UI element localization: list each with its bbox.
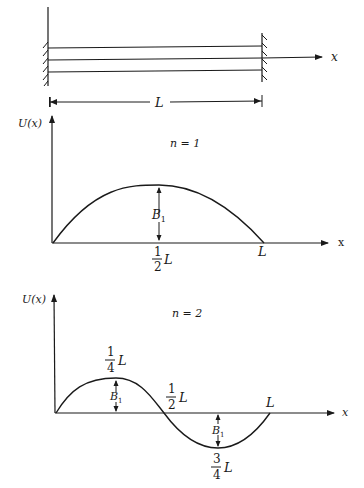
- svg-text:4: 4: [107, 361, 115, 375]
- svg-text:2: 2: [168, 398, 176, 412]
- mode2-mode-label: n = 2: [172, 307, 202, 320]
- mode2-y-axis: [54, 295, 55, 413]
- mode1-x-axis-label: x: [338, 236, 345, 249]
- svg-text:L: L: [163, 252, 173, 267]
- beam-line-middle: [48, 58, 262, 60]
- mode1-end-label: L: [257, 244, 267, 259]
- svg-text:1: 1: [168, 382, 176, 396]
- beam-x-axis-label: x: [331, 50, 338, 64]
- length-dimension-right: [170, 101, 262, 102]
- mode2-plot: U(x) x n = 2 B1 B1 1 4 L 1 2 L 3: [22, 293, 349, 482]
- mode1-y-axis-label: U(x): [18, 117, 42, 130]
- mode2-end-label: L: [265, 395, 275, 410]
- length-label: L: [154, 95, 164, 110]
- beam-diagram: x L: [43, 7, 338, 110]
- beam-line-top: [48, 46, 262, 48]
- svg-text:4: 4: [213, 468, 221, 482]
- mode2-x-axis-label: x: [342, 406, 349, 419]
- mode2-peak-position-label: 1 4 L: [105, 345, 127, 375]
- mode1-amplitude-label: B1: [151, 208, 166, 224]
- svg-text:1: 1: [154, 245, 162, 259]
- mode1-peak-position-label: 1 2 L: [152, 245, 173, 274]
- dimension-arrow-left-icon: [50, 99, 57, 105]
- svg-text:1: 1: [107, 345, 115, 359]
- mode2-node-position-label: 1 2 L: [166, 382, 188, 412]
- mode1-plot: U(x) x n = 1 B1 1 2 L L: [18, 116, 345, 274]
- beam-line-bottom: [48, 70, 262, 72]
- mode2-y-axis-label: U(x): [22, 293, 46, 306]
- beam-x-axis-arrow: [262, 57, 322, 58]
- left-wall-hatch: [43, 42, 48, 86]
- dimension-arrow-right-icon: [254, 98, 261, 104]
- mode1-mode-label: n = 1: [170, 137, 200, 150]
- svg-text:2: 2: [154, 260, 162, 274]
- svg-text:L: L: [117, 353, 127, 368]
- mode2-trough-amplitude-label: B1: [211, 424, 225, 439]
- mode2-trough-position-label: 3 4 L: [211, 452, 233, 482]
- vibration-modes-figure: x L U(x) x n = 1 B1 1 2 L L U(x): [0, 0, 364, 488]
- svg-text:L: L: [178, 390, 188, 405]
- svg-text:3: 3: [213, 452, 221, 466]
- svg-text:L: L: [223, 460, 233, 475]
- mode2-peak-amplitude-label: B1: [109, 390, 123, 405]
